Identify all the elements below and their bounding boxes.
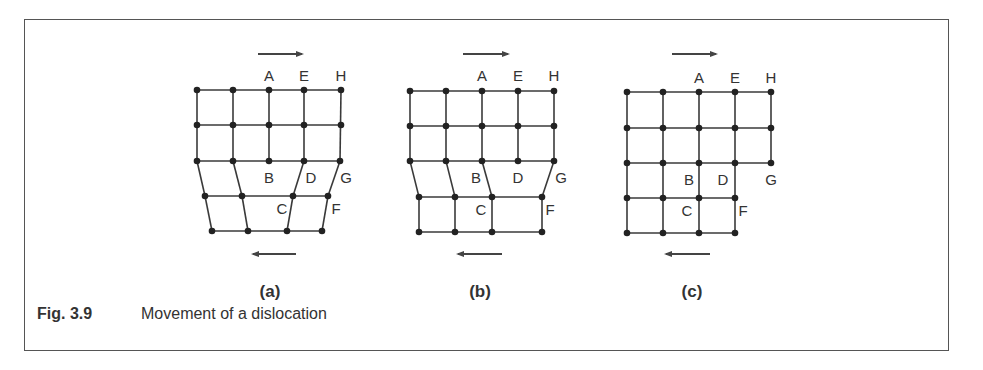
point-label-a: A [477, 67, 487, 84]
atom-node [230, 87, 237, 94]
atom-node [539, 229, 546, 236]
atom-node [452, 194, 459, 201]
figure-caption-text: Movement of a dislocation [141, 305, 327, 322]
point-label-a: A [264, 67, 274, 84]
point-label-b: B [471, 169, 481, 186]
atom-node [768, 125, 775, 132]
atom-node [696, 160, 703, 167]
atom-node [479, 158, 486, 165]
atom-node [489, 229, 496, 236]
atom-node [479, 88, 486, 95]
atom-node [266, 122, 273, 129]
atom-node [325, 193, 332, 200]
atom-node [416, 229, 423, 236]
vertical-bond [242, 196, 248, 231]
atom-node [515, 88, 522, 95]
atom-node [301, 158, 308, 165]
atom-node [660, 230, 667, 237]
atom-node [624, 125, 631, 132]
atom-node [209, 228, 216, 235]
point-label-g: G [765, 171, 777, 188]
atom-node [768, 160, 775, 167]
atom-node [732, 160, 739, 167]
point-label-e: E [730, 69, 740, 86]
vertical-bond [322, 196, 328, 231]
atom-node [732, 125, 739, 132]
point-label-a: A [694, 69, 704, 86]
figure-number: Fig. 3.9 [37, 305, 141, 323]
point-label-g: G [555, 169, 567, 186]
atom-node [551, 123, 558, 130]
point-label-h: H [766, 69, 777, 86]
point-label-f: F [545, 201, 554, 218]
atom-node [768, 89, 775, 96]
point-label-c: C [277, 200, 288, 217]
vertical-bond [205, 196, 212, 231]
point-label-g: G [340, 169, 352, 186]
atom-node [290, 193, 297, 200]
point-label-d: D [306, 169, 317, 186]
atom-node [660, 89, 667, 96]
vertical-bond [197, 161, 205, 196]
panel-c: AEHBDGCF(c) [624, 54, 777, 301]
panel-label-c: (c) [682, 282, 703, 301]
atom-node [194, 87, 201, 94]
atom-node [443, 88, 450, 95]
atom-node [489, 194, 496, 201]
point-label-b: B [264, 169, 274, 186]
vertical-bond [233, 161, 242, 196]
atom-node [624, 230, 631, 237]
point-label-e: E [299, 67, 309, 84]
vertical-bond [542, 161, 554, 197]
point-label-h: H [336, 67, 347, 84]
point-label-f: F [331, 200, 340, 217]
atom-node [660, 195, 667, 202]
atom-node [732, 195, 739, 202]
atom-node [515, 123, 522, 130]
atom-node [452, 229, 459, 236]
atom-node [515, 158, 522, 165]
atom-node [539, 194, 546, 201]
atom-node [443, 158, 450, 165]
panel-label-b: (b) [469, 282, 491, 301]
vertical-bond [287, 196, 293, 231]
atom-node [301, 87, 308, 94]
atom-node [194, 158, 201, 165]
panel-b: AEHBDGCF(b) [407, 54, 567, 301]
vertical-bond [328, 161, 340, 196]
atom-node [416, 194, 423, 201]
atom-node [338, 122, 345, 129]
atom-node [479, 123, 486, 130]
atom-node [407, 88, 414, 95]
atom-node [732, 230, 739, 237]
atom-node [338, 87, 345, 94]
atom-node [696, 195, 703, 202]
atom-node [245, 228, 252, 235]
atom-node [239, 193, 246, 200]
atom-node [551, 88, 558, 95]
point-label-d: D [513, 169, 524, 186]
atom-node [660, 125, 667, 132]
atom-node [407, 158, 414, 165]
atom-node [407, 123, 414, 130]
atom-node [443, 123, 450, 130]
atom-node [696, 230, 703, 237]
atom-node [732, 89, 739, 96]
atom-node [301, 122, 308, 129]
atom-node [284, 228, 291, 235]
point-label-f: F [738, 202, 747, 219]
atom-node [337, 158, 344, 165]
atom-node [266, 87, 273, 94]
vertical-bond [410, 161, 419, 197]
vertical-bond [293, 161, 304, 196]
atom-node [230, 122, 237, 129]
vertical-bond [482, 161, 492, 197]
atom-node [202, 193, 209, 200]
atom-node [624, 160, 631, 167]
atom-node [194, 122, 201, 129]
point-label-h: H [549, 67, 560, 84]
atom-node [696, 89, 703, 96]
atom-node [696, 125, 703, 132]
atom-node [551, 158, 558, 165]
point-label-b: B [684, 171, 694, 188]
